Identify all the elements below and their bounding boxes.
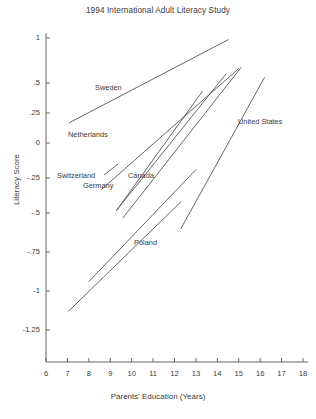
x-tick-label: 13: [184, 369, 208, 378]
chart-plot-area: [0, 0, 316, 419]
y-tick-label: -.5: [4, 208, 40, 217]
series-line-united-states: [181, 78, 265, 229]
y-tick-label: -1: [4, 286, 40, 295]
series-label-poland: Poland: [134, 238, 157, 247]
y-tick-label: 0: [4, 138, 40, 147]
series-label-canada: Canada: [128, 171, 154, 180]
x-tick-label: 17: [270, 369, 294, 378]
x-tick-label: 9: [98, 369, 122, 378]
switzerland-pointer-icon: [104, 164, 118, 175]
series-label-united-states: United States: [238, 117, 282, 126]
x-tick-label: 18: [291, 369, 315, 378]
y-tick-label: -.75: [4, 247, 40, 256]
series-label-netherlands: Netherlands: [68, 130, 108, 139]
x-tick-label: 10: [120, 369, 144, 378]
data-series-lines: [68, 40, 264, 311]
axis-ticks: [46, 38, 303, 362]
series-line-switzerland: [117, 74, 226, 210]
x-tick-label: 14: [205, 369, 229, 378]
series-line-unlabeled-low: [68, 202, 180, 311]
series-line-canada: [123, 68, 241, 218]
series-line-germany: [117, 91, 203, 210]
y-tick-label: -.25: [4, 173, 40, 182]
chart-figure: 1994 International Adult Literacy Study …: [0, 0, 316, 419]
x-tick-label: 11: [141, 369, 165, 378]
series-label-germany: Germany: [83, 181, 113, 190]
axes: [46, 33, 308, 362]
x-tick-label: 12: [163, 369, 187, 378]
series-line-netherlands: [102, 69, 239, 190]
x-axis-title: Parents' Education (Years): [0, 392, 316, 401]
y-tick-label: .5: [4, 78, 40, 87]
series-line-sweden: [70, 40, 228, 123]
x-tick-label: 16: [248, 369, 272, 378]
series-label-switzerland: Switzerland: [57, 171, 95, 180]
y-tick-label: .25: [4, 108, 40, 117]
y-tick-label: -1.25: [4, 325, 40, 334]
series-label-sweden: Sweden: [95, 83, 122, 92]
y-axis-title: Literacy Score: [12, 140, 21, 220]
x-tick-label: 7: [55, 369, 79, 378]
x-tick-label: 15: [227, 369, 251, 378]
x-tick-label: 6: [34, 369, 58, 378]
annotation-pointers: [104, 164, 118, 175]
y-tick-label: 1: [4, 33, 40, 42]
x-tick-label: 8: [77, 369, 101, 378]
